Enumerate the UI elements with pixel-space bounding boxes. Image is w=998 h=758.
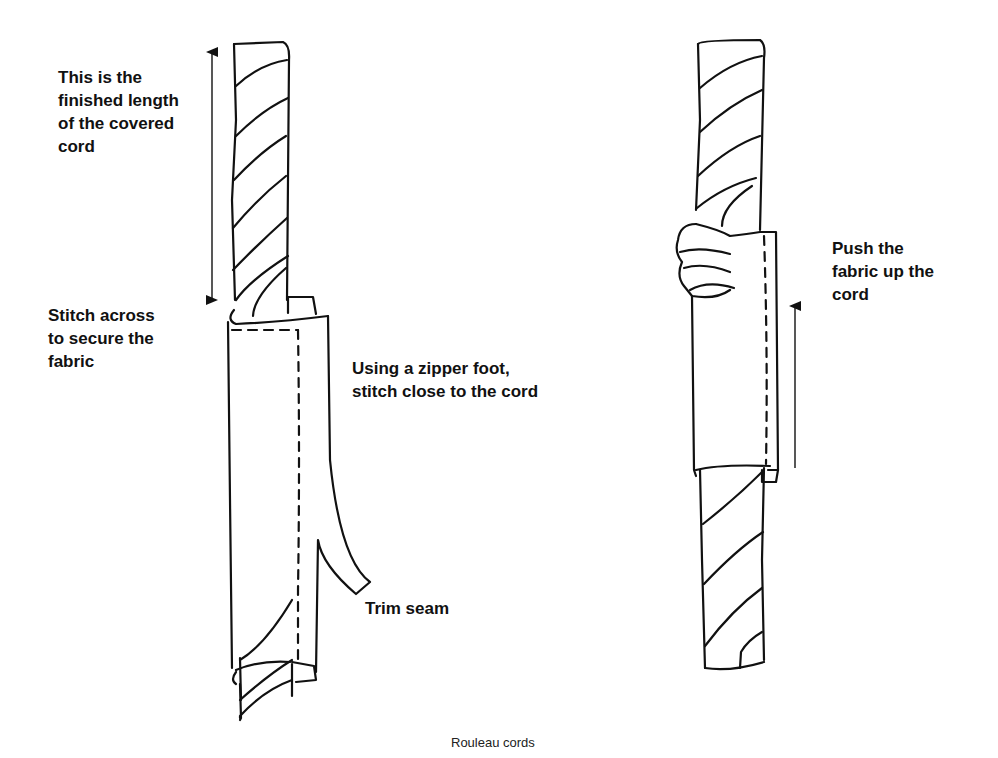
right-hand-and-fabric bbox=[677, 224, 778, 482]
figure-caption: Rouleau cords bbox=[451, 735, 535, 750]
right-cord-top bbox=[696, 40, 765, 230]
left-cord-top bbox=[232, 42, 289, 316]
zipper-foot-label: Using a zipper foot, stitch close to the… bbox=[352, 357, 538, 403]
left-fabric-tube bbox=[228, 297, 370, 684]
trim-seam-label: Trim seam bbox=[365, 597, 449, 620]
left-cord-bottom bbox=[240, 600, 292, 720]
right-cord-bottom bbox=[700, 468, 764, 669]
finished-length-label: This is the finished length of the cover… bbox=[58, 66, 179, 158]
rouleau-diagram: This is the finished length of the cover… bbox=[0, 0, 998, 758]
push-fabric-label: Push the fabric up the cord bbox=[832, 237, 934, 306]
stitch-across-label: Stitch across to secure the fabric bbox=[48, 304, 155, 373]
